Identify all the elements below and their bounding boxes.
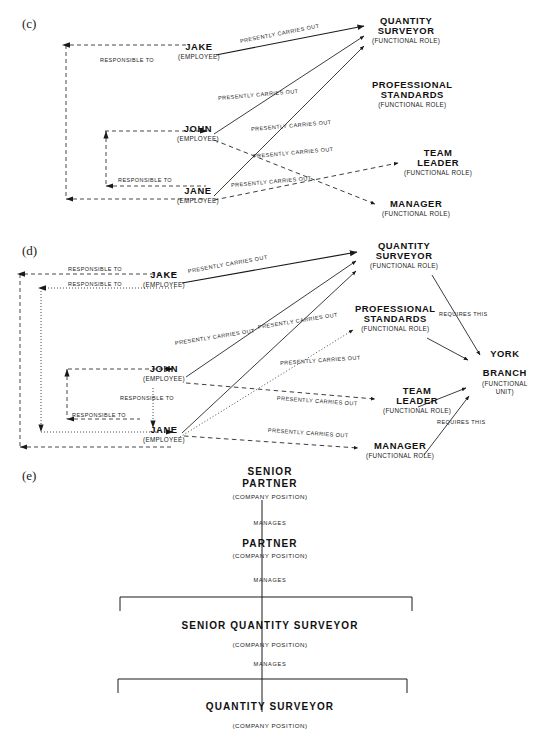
node-type: (FUNCTIONAL ROLE) — [372, 102, 453, 109]
node-name: MANAGER — [382, 199, 450, 209]
node-quantity-surveyor-d: QUANTITY SURVEYOR (FUNCTIONAL ROLE) — [370, 241, 438, 270]
edge-label-john-qs-d: PRESENTLY CARRIES OUT — [258, 311, 339, 330]
edge-label-john-manager-c: PRESENTLY CARRIES OUT — [253, 146, 334, 159]
node-name-line2: STANDARDS — [372, 90, 453, 100]
node-name: JOHN — [177, 124, 219, 134]
relation-manages-2-e: MANAGES — [0, 577, 540, 583]
relation-manages-1-e: MANAGES — [0, 520, 540, 526]
node-name: PARTNER — [0, 538, 540, 550]
node-partner-e: PARTNER (COMPANY POSITION) — [0, 538, 540, 559]
node-quantity-surveyor-e: QUANTITY SURVEYOR (COMPANY POSITION) — [0, 701, 540, 729]
edge-label-responsible-john-d: RESPONSIBLE TO — [120, 395, 174, 401]
node-name: JOHN — [143, 364, 185, 374]
panel-c-lines — [62, 26, 398, 204]
edge-label-responsible-jane-d: RESPONSIBLE TO — [72, 412, 126, 418]
panel-e-lines — [118, 500, 412, 712]
node-jane-c: JANE (EMPLOYEE) — [177, 186, 219, 204]
node-name: SENIOR QUANTITY SURVEYOR — [0, 620, 540, 632]
node-type: (EMPLOYEE) — [143, 437, 185, 444]
panel-letter-d: (d) — [22, 243, 37, 259]
node-name: JAKE — [178, 42, 220, 52]
node-team-leader-c: TEAM LEADER (FUNCTIONAL ROLE) — [404, 148, 472, 177]
node-type: (COMPANY POSITION) — [0, 722, 540, 729]
node-team-leader-d: TEAM LEADER (FUNCTIONAL ROLE) — [383, 386, 451, 415]
node-type: (EMPLOYEE) — [178, 54, 220, 61]
node-john-d: JOHN (EMPLOYEE) — [143, 364, 185, 382]
node-type: (FUNCTIONAL ROLE) — [372, 38, 440, 45]
node-name-line2: PARTNER — [0, 478, 540, 490]
node-name: JANE — [177, 186, 219, 196]
node-type: (FUNCTIONAL ROLE) — [366, 453, 434, 460]
edge-label-jane-prof-d: PRESENTLY CARRIES OUT — [280, 354, 361, 366]
edge-label-jane-manager-d: PRESENTLY CARRIES OUT — [268, 427, 349, 439]
node-name-line2: SURVEYOR — [372, 26, 440, 36]
node-name-line2: LEADER — [404, 158, 472, 168]
node-senior-partner-e: SENIOR PARTNER (COMPANY POSITION) — [0, 466, 540, 500]
edge-label-john-qs-c: PRESENTLY CARRIES OUT — [218, 88, 299, 101]
node-name: QUANTITY SURVEYOR — [0, 701, 540, 713]
edge-label-jane-team-c: PRESENTLY CARRIES OUT — [231, 175, 312, 188]
node-type: (EMPLOYEE) — [177, 198, 219, 205]
node-professional-standards-d: PROFESSIONAL STANDARDS (FUNCTIONAL ROLE) — [355, 304, 436, 333]
node-name-line2: SURVEYOR — [370, 251, 438, 261]
node-manager-d: MANAGER (FUNCTIONAL ROLE) — [366, 441, 434, 459]
node-senior-quantity-surveyor-e: SENIOR QUANTITY SURVEYOR (COMPANY POSITI… — [0, 620, 540, 648]
node-type: (FUNCTIONAL ROLE) — [355, 326, 436, 333]
node-type: (COMPANY POSITION) — [0, 552, 540, 559]
node-name-line1: SENIOR — [0, 466, 540, 478]
node-name: JANE — [143, 425, 185, 435]
edge-label-jane-qs-c: PRESENTLY CARRIES OUT — [251, 119, 332, 132]
edge-label-jane-qs-d: PRESENTLY CARRIES OUT — [175, 327, 256, 346]
node-type: (EMPLOYEE) — [143, 282, 185, 289]
node-type-line1: (FUNCTIONAL — [482, 381, 528, 388]
edge-label-requires-this-qs-d: REQUIRES THIS — [439, 311, 488, 317]
node-type: (FUNCTIONAL ROLE) — [382, 211, 450, 218]
node-type: (FUNCTIONAL ROLE) — [404, 170, 472, 177]
edge-label-responsible-jane-c: RESPONSIBLE TO — [118, 177, 172, 183]
edge-label-responsible-jake-c: RESPONSIBLE TO — [100, 57, 154, 63]
edge-label-jake-qs-d: PRESENTLY CARRIES OUT — [187, 254, 268, 274]
node-name-line1: YORK — [482, 349, 528, 359]
node-name: JAKE — [143, 270, 185, 280]
node-type-line2: UNIT) — [482, 389, 528, 396]
node-type: (FUNCTIONAL ROLE) — [383, 408, 451, 415]
node-name-line2: STANDARDS — [355, 314, 436, 324]
node-type: (FUNCTIONAL ROLE) — [370, 263, 438, 270]
node-name-line2: BRANCH — [482, 368, 528, 378]
edge-label-jake-qs-c: PRESENTLY CARRIES OUT — [239, 23, 319, 44]
node-manager-c: MANAGER (FUNCTIONAL ROLE) — [382, 199, 450, 217]
node-john-c: JOHN (EMPLOYEE) — [177, 124, 219, 142]
node-name-line2: LEADER — [383, 396, 451, 406]
edge-label-responsible-jake-inner-d: RESPONSIBLE TO — [68, 281, 122, 287]
node-jane-d: JANE (EMPLOYEE) — [143, 425, 185, 443]
edge-label-requires-this-manager-d: REQUIRES THIS — [437, 419, 486, 425]
node-jake-d: JAKE (EMPLOYEE) — [143, 270, 185, 288]
relation-manages-3-e: MANAGES — [0, 661, 540, 667]
node-quantity-surveyor-c: QUANTITY SURVEYOR (FUNCTIONAL ROLE) — [372, 16, 440, 45]
edge-label-responsible-jake-outer-d: RESPONSIBLE TO — [68, 266, 122, 272]
edge-label-john-team-d: PRESENTLY CARRIES OUT — [277, 395, 358, 407]
node-name: MANAGER — [366, 441, 434, 451]
node-type: (COMPANY POSITION) — [0, 493, 540, 500]
figure-canvas: (c) JAKE (EMPLOYEE) JOHN (EMPLOYEE) JANE… — [0, 0, 540, 742]
node-professional-standards-c: PROFESSIONAL STANDARDS (FUNCTIONAL ROLE) — [372, 80, 453, 109]
node-york-branch-d: YORK BRANCH (FUNCTIONAL UNIT) — [482, 349, 528, 396]
node-type: (EMPLOYEE) — [177, 136, 219, 143]
node-type: (COMPANY POSITION) — [0, 641, 540, 648]
node-type: (EMPLOYEE) — [143, 376, 185, 383]
node-jake-c: JAKE (EMPLOYEE) — [178, 42, 220, 60]
panel-letter-c: (c) — [22, 16, 36, 32]
